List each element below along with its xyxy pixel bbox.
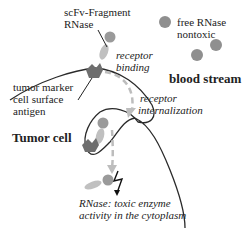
receptor-binding-label-line2: binding xyxy=(116,61,150,73)
free-rnase-label: free RNase xyxy=(177,16,226,28)
tumor-marker-label-line3: antigen xyxy=(13,105,45,117)
rnase-sphere-icon xyxy=(191,49,203,61)
tumor-marker-label: tumor marker xyxy=(13,81,73,93)
antigen-receptor-icon xyxy=(86,63,103,78)
dashed-arrow-icon xyxy=(105,72,133,110)
tumor-marker-label-line2: cell surface xyxy=(13,93,63,105)
free-rnase-label-line2: nontoxic xyxy=(177,28,216,40)
rnase-sphere-icon xyxy=(105,32,116,43)
toxic-activity-label: RNase: toxic enzyme xyxy=(79,197,171,209)
rnase-sphere-icon xyxy=(210,39,222,51)
tumor-cell-label: Tumor cell xyxy=(12,131,72,145)
scfv-fragment-icon xyxy=(83,179,102,192)
toxic-activity-label-line2: activity in the cytoplasm xyxy=(79,209,186,221)
scfv-label: scFv-Fragment xyxy=(64,6,131,18)
dashed-arrow-icon xyxy=(112,130,113,168)
receptor-binding-label: receptor xyxy=(116,49,153,61)
receptor-internalization-label: receptor xyxy=(140,92,177,104)
rnase-sphere-icon xyxy=(103,175,114,186)
lightning-bolt-icon xyxy=(114,171,122,193)
scfv-label-line2: RNase xyxy=(64,18,93,30)
diagram-canvas: scFv-Fragment RNase free RNase nontoxic … xyxy=(0,0,250,230)
rnase-sphere-icon xyxy=(98,118,109,129)
scfv-fragment-icon xyxy=(98,43,111,61)
blood-stream-label: blood stream xyxy=(169,72,241,86)
receptor-internalization-label-line2: internalization xyxy=(138,104,203,116)
rnase-sphere-icon xyxy=(159,16,171,28)
